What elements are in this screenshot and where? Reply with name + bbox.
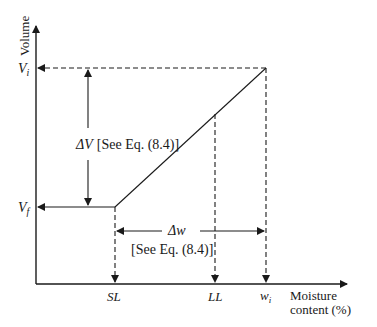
delta-v-label: ΔV[See Eq. (8.4)] — [75, 137, 179, 153]
x-axis-label-line1: Moisture — [290, 288, 337, 303]
vf-label: Vf — [18, 200, 31, 217]
delta-w-symbol: Δw — [167, 223, 186, 238]
ll-label: LL — [207, 289, 222, 304]
delta-w-ref: [See Eq. (8.4)] — [131, 242, 213, 258]
vi-label: Vi — [18, 61, 30, 78]
sl-label: SL — [107, 289, 121, 304]
diagram-canvas: Volume Vi Vf ΔV[See Eq. (8.4)] Δw [See E… — [0, 0, 377, 327]
x-axis-label-line2: content (%) — [290, 302, 351, 317]
y-axis-label: Volume — [17, 16, 32, 56]
wi-label: wi — [260, 288, 272, 305]
